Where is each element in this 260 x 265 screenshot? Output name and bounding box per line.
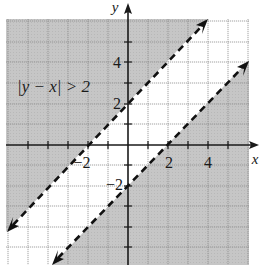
y-tick-label-2: 2 bbox=[113, 95, 121, 112]
inequality-graph: −2 2 4 4 2 −2 x y |y − x| > 2 bbox=[0, 0, 260, 265]
x-axis-label: x bbox=[251, 151, 259, 167]
y-tick-label-4: 4 bbox=[113, 54, 121, 71]
inequality-label: |y − x| > 2 bbox=[17, 77, 90, 96]
x-tick-label-neg2: −2 bbox=[73, 154, 90, 171]
y-tick-label-neg2: −2 bbox=[106, 176, 123, 193]
x-tick-label-4: 4 bbox=[204, 154, 212, 171]
y-axis-label: y bbox=[110, 0, 119, 15]
x-tick-label-2: 2 bbox=[165, 154, 173, 171]
